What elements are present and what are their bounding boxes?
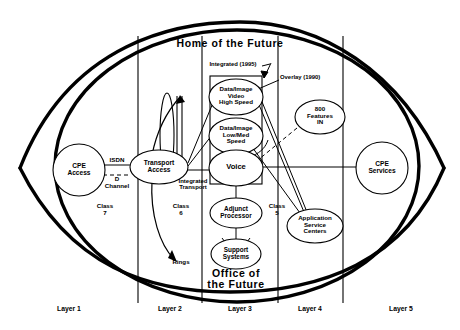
arrow-up-curve	[152, 97, 180, 155]
node-support-systems-label[interactable]: Support Systems	[211, 247, 261, 261]
node-cpe-services-label[interactable]: CPE Services	[357, 160, 407, 174]
layer-label-1: Layer 1	[44, 305, 94, 312]
node-app-service-centers-label[interactable]: Application Service Centers	[289, 215, 341, 235]
layer-label-3: Layer 3	[215, 305, 265, 312]
node-voice-label[interactable]: Voice	[211, 163, 261, 171]
node-adjunct-processor-label[interactable]: Adjunct Processor	[211, 206, 261, 220]
link-ta-lowmed	[188, 135, 212, 166]
annotation-d-channel: D Channel	[96, 176, 138, 189]
node-data-low-med-label[interactable]: Data/Image Low/Med Speed	[211, 125, 261, 145]
node-800-features-label[interactable]: 800 Features IN	[296, 106, 344, 126]
node-transport-access-label[interactable]: Transport Access	[132, 159, 186, 173]
title-home-of-the-future: Home of the Future	[150, 38, 310, 49]
diagram-canvas: Home of the Future Office of the Future …	[0, 0, 460, 330]
annotation-overlay-1990: Overlay (1990)	[280, 74, 342, 80]
layer-label-4: Layer 4	[285, 305, 335, 312]
arrow-down-curve	[152, 180, 174, 259]
annotation-class-7: Class 7	[90, 203, 120, 216]
title-office-of-the-future: Office of the Future	[176, 268, 296, 291]
node-data-video-high-label[interactable]: Data/Image Video High Speed	[211, 86, 261, 106]
annotation-integrated-1995: Integrated (1995)	[198, 61, 268, 67]
annotation-class-6: Class 6	[166, 203, 196, 216]
layer-label-5: Layer 5	[376, 305, 426, 312]
annotation-rings: Rings	[163, 259, 199, 266]
node-cpe-access-label[interactable]: CPE Access	[54, 162, 104, 176]
layer-label-2: Layer 2	[145, 305, 195, 312]
annotation-integrated-transport: Integrated Transport	[167, 178, 219, 191]
annotation-class-5: Class 5	[262, 203, 292, 216]
annotation-isdn: ISDN	[96, 157, 138, 164]
node-shapes	[53, 79, 408, 269]
